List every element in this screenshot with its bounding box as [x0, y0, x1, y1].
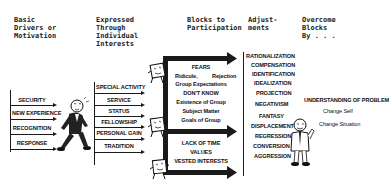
block-values: VALUES	[170, 149, 232, 155]
arrow-icon	[141, 137, 145, 141]
overcome-change-situation: Change Situation	[319, 121, 360, 127]
block-dont-know-title: DON'T KNOW	[170, 90, 232, 96]
interest-arrow-line	[94, 105, 142, 106]
adjustment-negativism: NEGATIVISM	[255, 101, 288, 107]
block-group-expectations: Group Expectations	[170, 81, 232, 87]
blocks-middle-arrow-bar	[163, 129, 229, 134]
block-goals-of-group: Goals of Group	[170, 117, 232, 123]
blocks-top-arrow-bar	[163, 56, 229, 61]
walking-man-icon	[55, 96, 93, 154]
block-lack-of-time: LACK OF TIME	[170, 140, 232, 146]
block-creature-icon	[148, 62, 168, 86]
interest-status: STATUS	[96, 108, 142, 114]
header-overcome: Overcome Blocks By . . .	[302, 16, 336, 40]
overcome-change-self: Change Self	[323, 108, 353, 114]
interest-arrow-line	[94, 93, 142, 94]
arrow-icon	[141, 114, 145, 118]
driver-arrow-line	[10, 149, 54, 150]
interest-personal-gain: PERSONAL GAIN	[96, 130, 142, 136]
block-creature-icon	[148, 116, 168, 140]
block-subject-matter: Subject Matter	[170, 108, 232, 114]
adjustment-compensation: COMPENSATION	[251, 62, 295, 68]
header-blocks: Blocks to Participation	[187, 16, 242, 32]
block-vested-interests: VESTED INTERESTS	[170, 158, 232, 164]
thick-arrow-icon	[227, 166, 237, 179]
adjustment-rationalization: RATIONALIZATION	[246, 53, 295, 59]
interest-arrow-line	[94, 152, 142, 153]
block-existence-of-group: Existence of Group	[170, 99, 232, 105]
header-adjustments: Adjust- ments	[248, 16, 278, 32]
interest-arrow-line	[94, 116, 142, 117]
interest-tradition: TRADITION	[96, 143, 142, 149]
overcome-understanding: UNDERSTANDING OF PROBLEM	[304, 97, 389, 103]
header-basic-drivers: Basic Drivers or Motivation	[14, 16, 56, 40]
block-fears-title: FEARS	[170, 64, 232, 70]
interest-arrow-line	[94, 139, 142, 140]
interest-service: SERVICE	[96, 97, 142, 103]
adjustment-identification: IDENTIFICATION	[252, 71, 295, 77]
block-rejection: Rejection	[212, 73, 236, 79]
drivers-bracket-line	[10, 90, 11, 152]
arrow-icon	[141, 150, 145, 154]
arrow-icon	[141, 125, 145, 129]
interest-special-activity: SPECIAL ACTIVITY	[96, 84, 142, 90]
driver-recognition: RECOGNITION	[12, 125, 52, 131]
driver-arrow-line	[10, 119, 54, 120]
driver-arrow-line	[10, 105, 54, 106]
block-ridicule: Ridicule,	[175, 73, 197, 79]
header-expressed-interests: Expressed Through Individual Interests	[96, 16, 138, 48]
thick-arrow-icon	[227, 125, 237, 138]
blocks-bottom-arrow-bar	[163, 170, 229, 175]
block-creature-icon	[150, 158, 170, 182]
driver-new-experience: NEW EXPERIENCE	[12, 110, 56, 116]
driver-arrow-line	[10, 134, 54, 135]
interest-fellowship: FELLOWSHIP	[96, 119, 142, 125]
adjustment-projection: PROJECTION	[256, 90, 291, 96]
driver-response: RESPONSE	[12, 140, 52, 146]
standing-man-icon	[286, 117, 316, 167]
interest-arrow-line	[94, 127, 142, 128]
arrow-icon	[141, 103, 145, 107]
adjustment-fantasy: FANTASY	[259, 113, 284, 119]
arrow-icon	[141, 91, 145, 95]
adjustment-conversion: CONVERSION	[253, 143, 290, 149]
adjustment-idealization: IDEALIZATION	[254, 80, 292, 86]
driver-security: SECURITY	[12, 97, 52, 103]
adjustments-divider	[243, 52, 244, 176]
